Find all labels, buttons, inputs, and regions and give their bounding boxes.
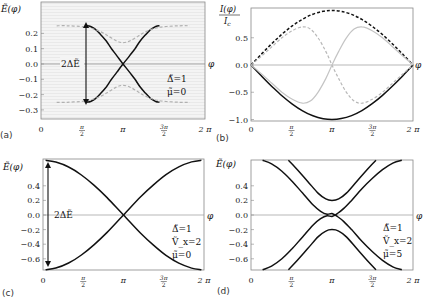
y-tick-label: −0.6 [21,255,40,264]
x-tick-label: 2 π [406,276,421,285]
y-tick-label: −0.2 [21,226,40,235]
x-tick-label: 2 [162,281,166,288]
x-tick-label: 0 [40,276,45,285]
y-tick-label: −0.2 [19,91,38,100]
y-ticks: 0.20.10.0−0.1−0.2−0.3 [19,29,44,115]
x-tick-label: 2 π [198,125,213,134]
y-tick-label: −0.5 [229,88,248,97]
x-tick-label: π [79,123,85,130]
x-tick-label: π [328,276,335,285]
x-tick-label: 2 [81,281,85,288]
param-vx: Ṽ_x=2 [171,236,201,248]
y-tick-label: 0.2 [235,196,248,205]
y-tick-label: −0.3 [19,106,38,115]
figure: 2ΔẼ Δ̃=1 μ̃=0 Ẽ(φ) φ 0.20.10.0−0.1−0.2−0… [0,0,431,308]
panel-c: 2ΔẼ Δ̃=1 Ṽ_x=2 μ̃=0 Ẽ(φ) φ 0.40.20.0−0.2… [2,159,214,298]
panel-b: I(φ) Ic φ 0.50.0−0.5−1.0 0π2π3π22 π (b) [216,4,422,143]
x-axis-label: φ [207,211,214,221]
x-ticks: 0π2π3π22 π [248,123,420,137]
x-tick-label: 0 [38,125,43,134]
x-tick-label: 2 [371,130,375,137]
y-tick-label: 0.0 [27,211,40,220]
x-tick-label: π [119,125,126,134]
x-ticks: 0π2π3π22 π [248,274,420,288]
x-tick-label: 3π [160,123,169,130]
x-tick-label: 2 π [406,125,421,134]
y-tick-label: 0.0 [25,60,38,69]
y-tick-label: 0.2 [25,29,38,38]
y-tick-label: −1.0 [229,116,248,125]
y-tick-label: −0.6 [229,255,248,264]
x-tick-label: 2 [290,281,294,288]
x-tick-label: 0 [248,276,253,285]
x-ticks: 0π2π3π22 π [40,274,211,288]
y-axis-label: Ẽ(φ) [2,161,23,172]
gap-label: 2ΔẼ [54,209,73,220]
y-tick-label: 0.4 [235,182,248,191]
y-tick-label: 0.4 [27,182,40,191]
y-tick-label: 0.0 [235,61,248,70]
y-ticks: 0.40.20.0−0.2−0.4−0.6 [21,182,46,264]
x-axis-label: φ [208,59,215,69]
y-tick-label: −0.4 [21,240,40,249]
y-ticks: 0.50.0−0.5−1.0 [229,34,254,125]
param-vx: Ṽ_x=2 [382,235,412,247]
x-tick-label: 2 [290,130,294,137]
param-delta: Δ̃=1 [383,223,403,233]
x-tick-label: 3π [369,123,378,130]
x-tick-label: π [80,274,86,281]
y-ticks: 0.40.20.0−0.2−0.4−0.6 [229,182,254,264]
x-tick-label: 2 [371,281,375,288]
param-mu: μ̃=0 [167,87,186,97]
x-tick-label: 3π [369,274,378,281]
y-axis-label: Ẽ(φ) [215,158,236,169]
y-tick-label: 0.1 [25,45,38,54]
x-tick-label: 2 [162,130,166,137]
x-tick-label: π [289,123,295,130]
param-mu: μ̃=0 [172,250,191,260]
x-tick-label: 0 [248,125,253,134]
y-tick-label: −0.1 [19,75,38,84]
y-tick-label: 0.2 [27,196,40,205]
panel-a: 2ΔẼ Δ̃=1 μ̃=0 Ẽ(φ) φ 0.20.10.0−0.1−0.2−0… [0,2,215,140]
x-axis-label: φ [415,60,422,70]
gap-label: 2ΔẼ [61,58,80,69]
param-mu: μ̃=5 [383,249,402,259]
x-tick-label: 3π [160,274,169,281]
panel-label: (c) [2,288,14,298]
x-tick-label: 2 π [197,276,212,285]
y-axis-label-num: I(φ) [219,4,236,14]
y-tick-label: −0.4 [229,240,248,249]
y-axis-label: Ẽ(φ) [0,3,21,14]
y-tick-label: 0.5 [235,34,248,43]
panel-label: (a) [0,130,13,140]
panel-d: Δ̃=1 Ṽ_x=2 μ̃=5 Ẽ(φ) φ 0.40.20.0−0.2−0.4… [215,158,423,296]
x-tick-label: 2 [80,130,84,137]
x-ticks: 0π2π3π22 π [38,123,212,137]
y-axis-label-den: Ic [223,16,231,27]
y-tick-label: 0.0 [235,211,248,220]
y-tick-label: −0.2 [229,226,248,235]
panel-label: (d) [217,286,230,296]
param-delta: Δ̃=1 [172,224,192,234]
x-tick-label: π [328,125,335,134]
x-axis-label: φ [416,211,423,221]
x-tick-label: π [289,274,295,281]
panel-label: (b) [216,133,229,143]
param-delta: Δ̃=1 [167,74,187,84]
x-tick-label: π [120,276,127,285]
